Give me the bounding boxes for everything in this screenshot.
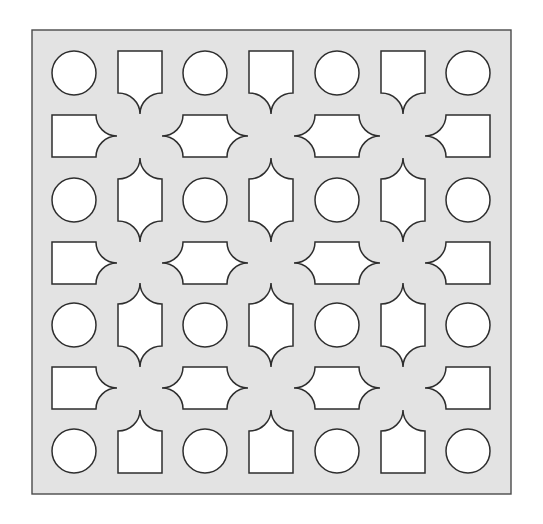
- circle-hole: [183, 178, 227, 222]
- circle-hole: [315, 429, 359, 473]
- circle-hole: [183, 429, 227, 473]
- circle-hole: [315, 303, 359, 347]
- circle-hole: [315, 51, 359, 95]
- circle-hole: [446, 178, 490, 222]
- circle-hole: [52, 178, 96, 222]
- circle-hole: [446, 429, 490, 473]
- circle-hole: [183, 51, 227, 95]
- circle-hole: [183, 303, 227, 347]
- circle-hole: [446, 303, 490, 347]
- circle-hole: [52, 429, 96, 473]
- circle-hole: [52, 51, 96, 95]
- circle-hole: [315, 178, 359, 222]
- lattice-pattern: [0, 0, 543, 524]
- circle-hole: [52, 303, 96, 347]
- circle-hole: [446, 51, 490, 95]
